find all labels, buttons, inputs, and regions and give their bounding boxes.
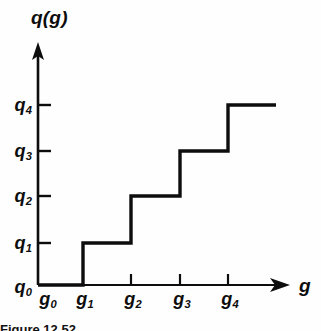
y-tick-label-q1-sub: 1 [26, 242, 32, 254]
x-tick-label-g4-main: g [221, 289, 232, 309]
y-tick-label-q0-sub: 0 [26, 286, 32, 298]
y-axis-title: q(g) [31, 8, 68, 27]
y-tick-label-q4: q4 [14, 96, 32, 114]
x-tick-label-g4: g4 [221, 290, 239, 308]
y-tick-label-q4-main: q [14, 95, 25, 115]
x-axis-title: g [299, 276, 311, 295]
y-tick-label-q2: q2 [14, 187, 32, 205]
x-tick-label-g0-main: g [39, 289, 50, 309]
x-tick-label-g1-sub: 1 [88, 298, 94, 310]
figure-root: q(g) g q4 q3 q2 q1 q0 g0 g1 g2 g3 g4 Fig… [0, 0, 321, 331]
x-tick-label-g3-main: g [173, 289, 184, 309]
y-tick-label-q0: q0 [14, 278, 32, 296]
y-tick-label-q3-main: q [14, 141, 25, 161]
x-tick-label-g3: g3 [173, 290, 191, 308]
x-tick-label-g4-sub: 4 [233, 298, 239, 310]
y-tick-label-q3-sub: 3 [26, 150, 32, 162]
figure-caption: Figure 12.52 [0, 322, 321, 331]
y-tick-label-q1-main: q [14, 233, 25, 253]
y-tick-label-q3: q3 [14, 142, 32, 160]
x-tick-label-g2-main: g [124, 289, 135, 309]
x-tick-label-g3-sub: 3 [185, 298, 191, 310]
y-tick-label-q2-sub: 2 [26, 195, 32, 207]
step-function-plot [0, 0, 321, 331]
x-tick-label-g0: g0 [39, 290, 57, 308]
x-tick-label-g2: g2 [124, 290, 142, 308]
x-tick-label-g1-main: g [76, 289, 87, 309]
x-tick-label-g2-sub: 2 [136, 298, 142, 310]
x-tick-label-g1: g1 [76, 290, 94, 308]
y-tick-label-q1: q1 [14, 234, 32, 252]
y-tick-label-q2-main: q [14, 186, 25, 206]
y-tick-label-q4-sub: 4 [26, 104, 32, 116]
x-tick-label-g0-sub: 0 [51, 298, 57, 310]
y-tick-label-q0-main: q [14, 277, 25, 297]
